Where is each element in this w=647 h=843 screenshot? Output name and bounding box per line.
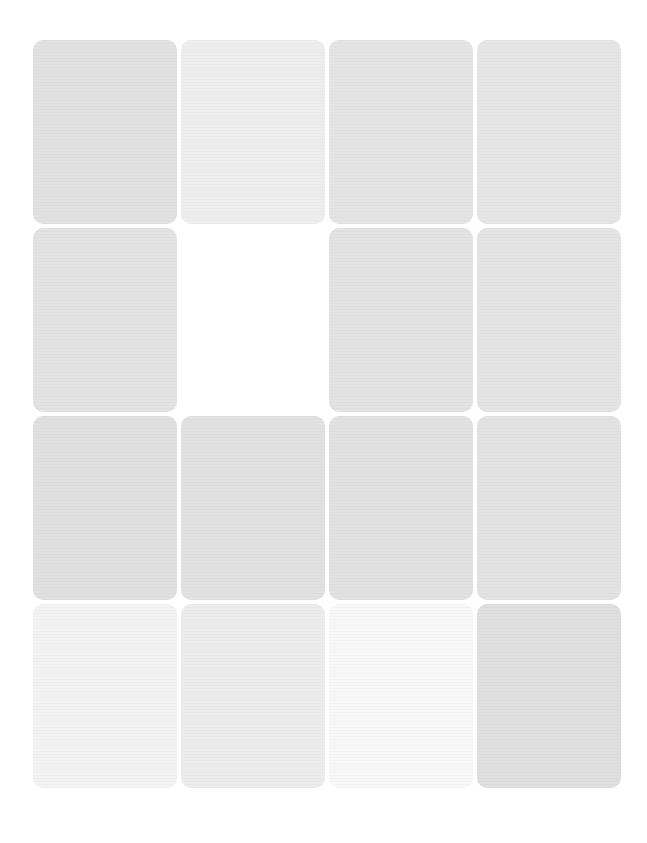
tile-r1-c2[interactable] [181,40,325,224]
tile-r1-c1[interactable] [33,40,177,224]
tile-grid [33,40,621,788]
tile-r1-c3[interactable] [329,40,473,224]
tile-r2-c3[interactable] [329,228,473,412]
tile-r1-c4[interactable] [477,40,621,224]
tile-r4-c2[interactable] [181,604,325,788]
tile-r3-c3[interactable] [329,416,473,600]
tile-r3-c1[interactable] [33,416,177,600]
tile-r3-c4[interactable] [477,416,621,600]
tile-r4-c4[interactable] [477,604,621,788]
tile-r4-c1[interactable] [33,604,177,788]
tile-r2-c4[interactable] [477,228,621,412]
tile-r2-c1[interactable] [33,228,177,412]
tile-r4-c3[interactable] [329,604,473,788]
tile-r2-c2-empty [181,228,325,412]
tile-r3-c2[interactable] [181,416,325,600]
